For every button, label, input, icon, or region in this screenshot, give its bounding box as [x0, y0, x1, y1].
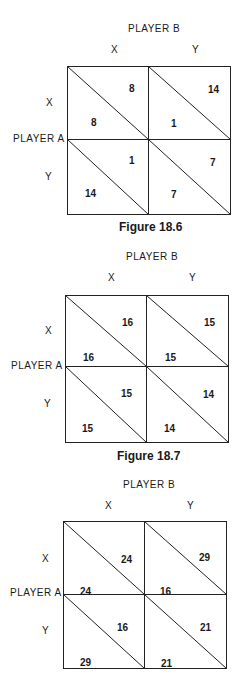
payoff-xx-a: 16	[83, 352, 94, 363]
player-b-label: PLAYER B	[126, 251, 178, 262]
col-label-x: X	[111, 44, 118, 55]
payoff-yy-b: 7	[210, 157, 216, 168]
payoff-yy-a: 21	[161, 658, 172, 669]
payoff-xy-a: 1	[171, 118, 177, 129]
payoff-yx-b: 1	[129, 155, 135, 166]
row-label-y: Y	[44, 398, 51, 409]
payoff-xy-b: 15	[204, 317, 215, 328]
player-a-label: PLAYER A	[11, 360, 63, 371]
payoff-xy-a: 16	[160, 586, 171, 597]
payoff-matrix-figure-18-6: PLAYER B X Y X PLAYER A Y 8 8 14 1 1 14 …	[0, 0, 241, 230]
payoff-yy-a: 7	[171, 189, 177, 200]
row-label-x: X	[45, 325, 52, 336]
payoff-yy-b: 14	[203, 389, 214, 400]
payoff-xx-b: 16	[122, 317, 133, 328]
payoff-matrix-figure-3: PLAYER B X Y X PLAYER A Y 24 24 29 16 16…	[0, 458, 241, 677]
payoff-matrix-figure-18-7: PLAYER B X Y X PLAYER A Y 16 16 15 15 15…	[0, 230, 241, 458]
payoff-yx-b: 16	[117, 622, 128, 633]
payoff-yx-a: 15	[82, 423, 93, 434]
row-label-y: Y	[45, 171, 52, 182]
col-label-x: X	[108, 272, 115, 283]
row-label-y: Y	[42, 625, 49, 636]
payoff-xx-a: 24	[80, 586, 91, 597]
payoff-xy-a: 15	[165, 352, 176, 363]
payoff-yy-b: 21	[200, 622, 211, 633]
player-b-label: PLAYER B	[123, 479, 175, 490]
player-b-label: PLAYER B	[128, 23, 180, 34]
player-a-label: PLAYER A	[10, 587, 62, 598]
col-label-y: Y	[192, 44, 199, 55]
payoff-xy-b: 29	[199, 552, 210, 563]
payoff-yx-b: 15	[121, 388, 132, 399]
payoff-yx-a: 29	[80, 657, 91, 668]
payoff-xx-a: 8	[91, 117, 97, 128]
payoff-xx-b: 8	[129, 83, 135, 94]
row-label-x: X	[42, 553, 49, 564]
payoff-yx-a: 14	[85, 188, 96, 199]
payoff-xx-b: 24	[121, 554, 132, 565]
col-label-y: Y	[187, 500, 194, 511]
row-label-x: X	[46, 97, 53, 108]
payoff-xy-b: 14	[208, 84, 219, 95]
player-a-label: PLAYER A	[13, 133, 65, 144]
col-label-x: X	[105, 500, 112, 511]
col-label-y: Y	[189, 272, 196, 283]
payoff-yy-a: 14	[164, 423, 175, 434]
